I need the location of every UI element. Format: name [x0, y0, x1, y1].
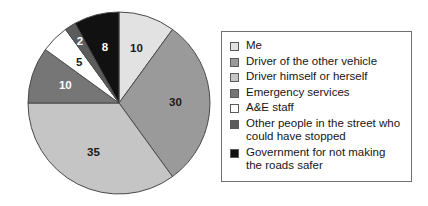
legend-item[interactable]: Government for not making the roads safe… — [230, 146, 405, 173]
pie-chart-figure: 10303510528 MeDriver of the other vehicl… — [0, 0, 428, 206]
legend-item[interactable]: Emergency services — [230, 86, 405, 100]
pie-slice-value-label: 2 — [77, 35, 83, 47]
legend-swatch-icon — [230, 58, 239, 67]
pie-slice-value-label: 35 — [87, 146, 100, 158]
legend: MeDriver of the other vehicleDriver hims… — [221, 31, 412, 182]
legend-item-label: Government for not making the roads safe… — [246, 146, 385, 173]
legend-item-label: Other people in the street who could hav… — [246, 117, 400, 144]
legend-item-label: Me — [246, 39, 262, 53]
pie-slice-value-label: 5 — [76, 56, 83, 68]
legend-swatch-icon — [230, 42, 239, 51]
legend-item[interactable]: Me — [230, 39, 405, 53]
legend-swatch-icon — [230, 120, 239, 129]
pie-slice-value-label: 10 — [130, 42, 143, 54]
legend-swatch-icon — [230, 89, 239, 98]
pie-slice-value-label: 10 — [59, 79, 72, 91]
legend-item-label: A&E staff — [246, 101, 294, 115]
legend-item[interactable]: Driver himself or herself — [230, 70, 405, 84]
pie-slice-group — [28, 12, 210, 194]
legend-item[interactable]: Driver of the other vehicle — [230, 55, 405, 69]
pie-slice-value-label: 30 — [169, 96, 182, 108]
legend-item-label: Driver of the other vehicle — [246, 55, 377, 69]
legend-item[interactable]: A&E staff — [230, 101, 405, 115]
pie-svg: 10303510528 — [18, 6, 222, 202]
pie-slice-value-label: 8 — [102, 41, 109, 53]
pie-chart: 10303510528 — [18, 6, 222, 202]
legend-swatch-icon — [230, 149, 239, 158]
legend-swatch-icon — [230, 104, 239, 113]
legend-item-label: Emergency services — [246, 86, 350, 100]
legend-item-label: Driver himself or herself — [246, 70, 367, 84]
legend-item[interactable]: Other people in the street who could hav… — [230, 117, 405, 144]
legend-swatch-icon — [230, 73, 239, 82]
